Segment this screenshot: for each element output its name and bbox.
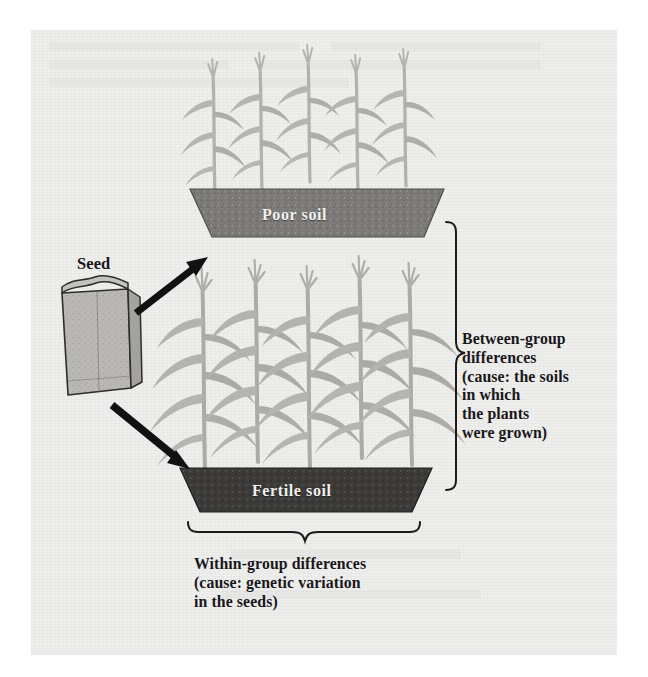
- figure-root: Seed Poor soil Fertile soil Between-grou…: [0, 0, 648, 677]
- arrow-seed-to-poor-soil: [136, 257, 208, 313]
- brace-within-group: [188, 522, 420, 541]
- between-group-annotation: Between-group differences (cause: the so…: [462, 330, 569, 443]
- within-group-annotation: Within-group differences (cause: genetic…: [194, 555, 366, 611]
- seed-label: Seed: [77, 254, 110, 273]
- planter-fertile-soil: [180, 468, 432, 512]
- arrow-seed-to-fertile-soil: [112, 405, 190, 469]
- planter-poor-soil: [190, 189, 444, 237]
- corn-plants-fertile-soil: [150, 256, 466, 470]
- corn-plants-poor-soil: [181, 45, 437, 196]
- fertile-soil-group: [150, 256, 466, 512]
- seed-bag: [62, 276, 142, 395]
- poor-soil-group: [181, 45, 444, 237]
